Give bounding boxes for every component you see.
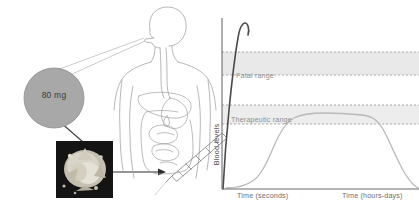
band-label-fatal-range: Fatal range xyxy=(236,71,274,80)
x-axis-label-left: Time (seconds) xyxy=(237,191,288,200)
y-axis-label-wrapper: Blood levels xyxy=(204,0,226,210)
y-axis-label: Blood levels xyxy=(212,115,221,175)
band-label-therapeutic-range: Therapeutic range xyxy=(231,115,292,124)
x-axis-label-right: Time (hours-days) xyxy=(342,191,403,200)
pharmacokinetics-figure: 80 mg Fatal range Therapeutic range Time… xyxy=(0,0,419,210)
chart-axes xyxy=(222,18,419,189)
